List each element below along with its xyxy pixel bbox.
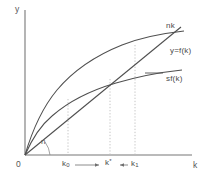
y-axis-label: y: [15, 5, 19, 14]
diagram-canvas: [0, 0, 206, 181]
production-function-curve: [25, 31, 184, 155]
production-function-label: y=f(k): [170, 47, 191, 55]
angle-n-label: n: [41, 138, 46, 146]
origin-label: 0: [16, 160, 21, 169]
solow-diagram-figure: y k 0 n nk y=f(k) sf(k) k0 k* k1: [0, 0, 206, 181]
x-axis-label: k: [193, 161, 197, 170]
k0-tick-label: k0: [62, 160, 70, 168]
nk-line: [25, 27, 181, 155]
nk-curve-label: nk: [166, 22, 175, 30]
arrow-k0-to-kstar-head: [95, 163, 99, 167]
saving-function-label: sf(k): [166, 75, 183, 83]
k0-subscript: 0: [66, 162, 70, 168]
saving-function-curve: [25, 70, 182, 155]
k1-subscript: 1: [135, 162, 139, 168]
kstar-superscript: *: [109, 158, 112, 164]
arrow-k1-to-kstar-head: [120, 163, 124, 167]
kstar-tick-label: k*: [105, 159, 112, 167]
angle-arc-n: [45, 142, 50, 155]
k1-tick-label: k1: [131, 160, 139, 168]
